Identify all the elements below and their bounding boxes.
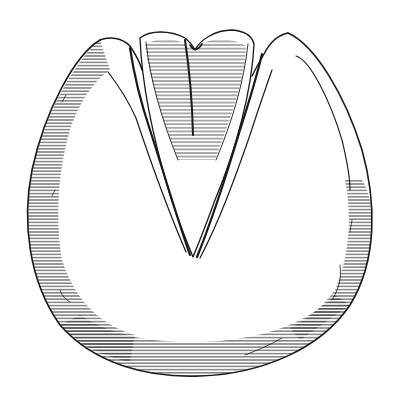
right-heel-inner xyxy=(296,56,350,190)
hoof-illustration xyxy=(0,0,394,405)
hoof-wall-right-shading xyxy=(290,180,372,340)
hoof-wall-left-shading xyxy=(28,40,135,362)
hoof-wall-bottom-shading xyxy=(60,295,350,376)
frog-shading xyxy=(145,39,246,160)
hoof-drawing xyxy=(0,0,394,405)
